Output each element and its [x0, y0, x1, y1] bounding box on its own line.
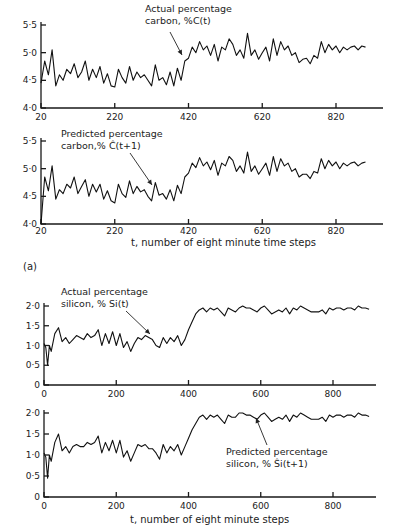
figure-label: (a) — [23, 261, 37, 272]
x-tick-label: 400 — [180, 389, 197, 399]
x-tick-label: 800 — [324, 501, 341, 511]
x-tick-label: 200 — [108, 501, 125, 511]
series-annotation-label: Actual percentage — [61, 286, 148, 297]
x-tick-label: 420 — [180, 112, 197, 122]
series-annotation-label: carbon, %C(t) — [145, 15, 211, 26]
y-tick-label: 1·5 — [26, 429, 40, 439]
x-tick-label: 20 — [35, 112, 47, 122]
y-tick-label: 0 — [34, 492, 40, 502]
figure-canvas: 4·04·55·05·520220420620820Actual percent… — [0, 0, 398, 528]
series-annotation-label: Predicted percentage — [61, 128, 163, 139]
data-series-line — [41, 33, 366, 87]
x-tick-label: 820 — [327, 112, 344, 122]
series-annotation-label: Predicted percentage — [226, 446, 328, 457]
y-tick-label: 1·5 — [26, 321, 40, 331]
carbon-x-axis-caption: t, number of eight minute time steps — [131, 237, 316, 248]
arrowhead-icon — [147, 180, 152, 185]
panel-silicon-actual: 00·51·01·52·00200400600800Actual percent… — [26, 286, 376, 399]
x-tick-label: 0 — [41, 501, 47, 511]
y-tick-label: 4·5 — [23, 191, 37, 201]
y-tick-label: 0·5 — [26, 471, 40, 481]
x-tick-label: 420 — [180, 226, 197, 236]
x-tick-label: 400 — [180, 501, 197, 511]
x-tick-label: 620 — [254, 226, 271, 236]
x-tick-label: 220 — [106, 226, 123, 236]
axis-lines — [41, 22, 383, 108]
series-annotation-label: silicon, % Ŝi(t+1) — [226, 458, 308, 469]
y-tick-label: 1·0 — [26, 341, 41, 351]
y-tick-label: 0 — [34, 380, 40, 390]
y-tick-label: 0·5 — [26, 360, 40, 370]
x-tick-label: 800 — [324, 389, 341, 399]
y-tick-label: 5·0 — [23, 48, 38, 58]
x-tick-label: 220 — [106, 112, 123, 122]
y-tick-label: 5·5 — [23, 20, 37, 30]
y-tick-label: 2·0 — [26, 408, 41, 418]
panel-carbon-predicted: 4·04·55·05·520220420620820Predicted perc… — [23, 128, 383, 236]
silicon-x-axis-caption: t, number of eight minute steps — [130, 514, 289, 525]
series-annotation-label: carbon,% Ĉ(t+1) — [61, 140, 141, 151]
x-tick-label: 620 — [254, 112, 271, 122]
x-tick-label: 20 — [35, 226, 47, 236]
y-tick-label: 2·0 — [26, 301, 41, 311]
panel-carbon-actual: 4·04·55·05·520220420620820Actual percent… — [23, 3, 383, 122]
series-annotation-label: silicon, % Si(t) — [61, 298, 129, 309]
data-series-line — [41, 152, 366, 224]
annotation-arrow — [130, 153, 152, 185]
y-tick-label: 5·0 — [23, 164, 38, 174]
x-tick-label: 820 — [327, 226, 344, 236]
data-series-line — [44, 306, 369, 365]
x-tick-label: 0 — [41, 389, 47, 399]
panel-silicon-predicted: 00·51·01·52·00200400600800Predicted perc… — [26, 408, 376, 511]
x-tick-label: 600 — [252, 501, 269, 511]
series-annotation-label: Actual percentage — [145, 3, 232, 14]
y-tick-label: 1·0 — [26, 450, 41, 460]
x-tick-label: 600 — [252, 389, 269, 399]
y-tick-label: 4·5 — [23, 75, 37, 85]
y-tick-label: 5·5 — [23, 136, 37, 146]
axis-lines — [44, 303, 376, 385]
x-tick-label: 200 — [108, 389, 125, 399]
